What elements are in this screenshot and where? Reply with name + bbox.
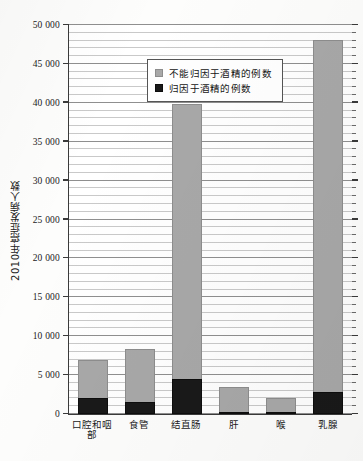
y-tick-right-major bbox=[352, 374, 358, 375]
y-tick-label: 40 000 bbox=[33, 98, 60, 108]
y-tick-right-minor bbox=[352, 211, 356, 212]
x-axis-label: 结直肠 bbox=[163, 420, 209, 430]
y-tick-right-minor bbox=[352, 94, 356, 95]
y-tick-right-minor bbox=[352, 156, 356, 157]
y-tick-right-minor bbox=[352, 32, 356, 33]
bar-segment-attributable bbox=[313, 392, 343, 414]
y-tick-right-minor bbox=[352, 187, 356, 188]
bar-segment-attributable bbox=[266, 412, 296, 414]
y-tick-right-minor bbox=[352, 55, 356, 56]
y-tick-right-minor bbox=[352, 281, 356, 282]
bar-segment-attributable bbox=[125, 402, 155, 414]
bar-segment-not-attributable bbox=[78, 360, 108, 398]
y-tick-right-major bbox=[352, 63, 358, 64]
y-tick-label: 10 000 bbox=[33, 331, 60, 341]
bar-group bbox=[78, 25, 108, 414]
y-tick-right-major bbox=[352, 413, 358, 414]
y-tick-right-minor bbox=[352, 148, 356, 149]
y-tick-right-minor bbox=[352, 265, 356, 266]
y-tick-right-minor bbox=[352, 203, 356, 204]
y-tick-right-minor bbox=[352, 195, 356, 196]
y-tick-right-minor bbox=[352, 343, 356, 344]
y-tick-label: 5 000 bbox=[38, 370, 60, 380]
y-tick-right-major bbox=[352, 257, 358, 258]
y-tick-right-minor bbox=[352, 327, 356, 328]
y-tick-right-minor bbox=[352, 312, 356, 313]
legend-swatch-gray-icon bbox=[155, 69, 163, 77]
x-axis-label: 喉 bbox=[258, 420, 304, 430]
y-tick-right-major bbox=[352, 218, 358, 219]
y-tick-right-minor bbox=[352, 133, 356, 134]
y-tick-right-minor bbox=[352, 164, 356, 165]
x-axis-label: 食管 bbox=[116, 420, 162, 430]
bar-segment-not-attributable bbox=[313, 40, 343, 393]
y-tick-label: 45 000 bbox=[33, 59, 60, 69]
y-tick-right-minor bbox=[352, 47, 356, 48]
y-tick-right-minor bbox=[352, 226, 356, 227]
y-tick-right-minor bbox=[352, 86, 356, 87]
y-tick-right-minor bbox=[352, 289, 356, 290]
x-axis-label: 肝 bbox=[211, 420, 257, 430]
alcohol-attributable-cancer-chart: 2010年癌症发病人数 05 00010 00015 00020 00025 0… bbox=[0, 0, 363, 461]
y-tick-label: 35 000 bbox=[33, 137, 60, 147]
y-tick-right-minor bbox=[352, 304, 356, 305]
legend-swatch-black-icon bbox=[155, 84, 163, 92]
legend-label-not-attributable: 不能归因于酒精的例数 bbox=[169, 66, 272, 80]
y-tick-right-minor bbox=[352, 250, 356, 251]
bar-group bbox=[313, 25, 343, 414]
y-tick-label: 50 000 bbox=[33, 20, 60, 30]
y-tick-right-minor bbox=[352, 351, 356, 352]
y-tick-label: 25 000 bbox=[33, 215, 60, 225]
plot-area: 05 00010 00015 00020 00025 00030 00035 0… bbox=[68, 25, 352, 415]
bar-segment-not-attributable bbox=[266, 398, 296, 411]
y-tick-label: 20 000 bbox=[33, 253, 60, 263]
bar-segment-attributable bbox=[172, 379, 202, 414]
x-axis-label: 乳腺 bbox=[305, 420, 351, 430]
y-tick-right-minor bbox=[352, 366, 356, 367]
y-tick-right-minor bbox=[352, 234, 356, 235]
y-tick-right-major bbox=[352, 296, 358, 297]
y-tick-right-minor bbox=[352, 110, 356, 111]
bar-segment-attributable bbox=[78, 398, 108, 414]
y-tick-right-minor bbox=[352, 382, 356, 383]
y-tick-right-minor bbox=[352, 40, 356, 41]
x-axis-labels: 口腔和咽部食管结直肠肝喉乳腺 bbox=[68, 420, 352, 446]
y-tick-right-minor bbox=[352, 78, 356, 79]
bar-segment-attributable bbox=[219, 412, 249, 414]
y-tick-right-minor bbox=[352, 405, 356, 406]
chart-legend: 不能归因于酒精的例数 归因于酒精的例数 bbox=[147, 59, 283, 102]
y-tick-label: 15 000 bbox=[33, 292, 60, 302]
bar-segment-not-attributable bbox=[172, 104, 202, 379]
legend-item-not-attributable: 不能归因于酒精的例数 bbox=[155, 66, 272, 80]
legend-label-attributable: 归因于酒精的例数 bbox=[169, 81, 251, 95]
y-tick-right-minor bbox=[352, 273, 356, 274]
y-tick-right-major bbox=[352, 24, 358, 25]
y-tick-right-major bbox=[352, 335, 358, 336]
y-tick-right-minor bbox=[352, 397, 356, 398]
y-tick-right-major bbox=[352, 101, 358, 102]
y-tick-right-minor bbox=[352, 359, 356, 360]
y-tick-right-minor bbox=[352, 242, 356, 243]
y-tick-right-minor bbox=[352, 71, 356, 72]
legend-item-attributable: 归因于酒精的例数 bbox=[155, 81, 272, 95]
bar-segment-not-attributable bbox=[125, 349, 155, 402]
y-tick-right-major bbox=[352, 140, 358, 141]
y-tick-right-minor bbox=[352, 172, 356, 173]
y-tick-right-major bbox=[352, 179, 358, 180]
y-tick-label: 30 000 bbox=[33, 176, 60, 186]
y-axis-title-text: 2010年癌症发病人数 bbox=[8, 180, 23, 281]
y-tick-right-minor bbox=[352, 320, 356, 321]
y-axis-title: 2010年癌症发病人数 bbox=[6, 0, 24, 461]
x-axis-label: 口腔和咽部 bbox=[69, 420, 115, 441]
y-tick-right-minor bbox=[352, 125, 356, 126]
bar-segment-not-attributable bbox=[219, 387, 249, 412]
y-tick-label: 0 bbox=[55, 409, 60, 419]
y-tick-right-minor bbox=[352, 117, 356, 118]
y-tick-right-minor bbox=[352, 390, 356, 391]
